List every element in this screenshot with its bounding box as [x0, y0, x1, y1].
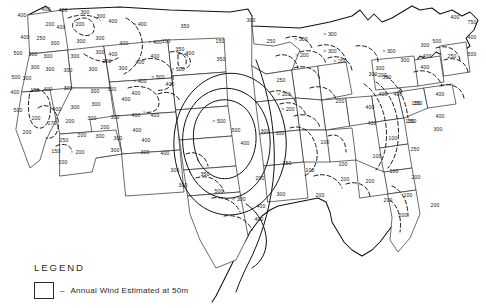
contour-label: > 200	[295, 52, 308, 58]
contour-label: 400	[21, 34, 30, 40]
contour-label: 250	[411, 146, 420, 152]
contour-label: 250	[267, 38, 276, 44]
contour-label: 400	[366, 104, 375, 110]
contour-label: 500	[14, 50, 23, 56]
contour-label: 500	[232, 127, 241, 133]
contour-label: 200	[46, 21, 55, 27]
contour-label: 400	[133, 127, 142, 133]
contour-label: 150	[283, 160, 292, 166]
contour-label: 350	[176, 46, 185, 52]
contour-label: > 400	[133, 21, 146, 27]
contour-label: 200	[431, 202, 440, 208]
contour-label: 200	[101, 124, 110, 130]
contour-label: 350	[162, 38, 171, 44]
contour-label: 300	[81, 9, 90, 15]
contour-label: 400	[136, 59, 145, 65]
contour-label: 500	[14, 107, 23, 113]
contour-label: > 300	[382, 48, 395, 54]
contour-gulf-coast-tx	[246, 204, 266, 268]
contour-label: 300	[111, 147, 120, 153]
legend-row: – Annual Wind Estimated at 50m	[34, 282, 189, 299]
legend: LEGEND – Annual Wind Estimated at 50m	[30, 262, 260, 306]
contour-label: 250	[277, 77, 286, 83]
contour-label: 300	[276, 130, 285, 136]
contour-label: 400	[42, 6, 51, 12]
contour-label: 500	[433, 38, 442, 44]
state-michigan	[318, 62, 352, 100]
contour-label: 300	[96, 49, 105, 55]
contour-label: 400	[151, 53, 160, 59]
contour-label: 400	[11, 89, 20, 95]
contour-label: 300	[421, 42, 430, 48]
contour-label: 400	[142, 137, 151, 143]
contour-label: 300	[31, 64, 40, 70]
contour-label: > 400	[133, 78, 146, 84]
contour-label: 200	[412, 174, 421, 180]
contour-label: 200	[336, 98, 345, 104]
contour-label: 150	[52, 148, 61, 154]
legend-dash: –	[60, 286, 64, 295]
contour-label: 300	[64, 85, 73, 91]
contour-label: 300	[111, 114, 120, 120]
contour-label: 100	[339, 161, 348, 167]
contour-label: 200	[399, 212, 408, 218]
contour-label: 200	[384, 197, 393, 203]
state-washington	[28, 10, 68, 54]
state-florida	[388, 190, 420, 252]
contour-label: 300	[23, 75, 32, 81]
contour-label: 200	[316, 192, 325, 198]
contour-label: 300	[261, 128, 270, 134]
contour-label: 300	[96, 35, 105, 41]
contour-label: > 400	[148, 39, 161, 45]
contour-label: 100	[321, 139, 330, 145]
contour-label: 300	[171, 167, 180, 173]
contour-label: 400	[57, 24, 66, 30]
contour-label: 400	[120, 40, 129, 46]
contour-label: > 300	[294, 36, 307, 42]
contour-label: 400	[161, 150, 170, 156]
contour-label: > 200	[281, 106, 294, 112]
contour-label: 400	[59, 7, 68, 13]
legend-swatch-label: Annual Wind Estimated at 50m	[70, 286, 188, 295]
wind-resource-map: 400400400300300400200200400> 40035030040…	[0, 0, 486, 308]
contour-label: 300	[434, 126, 443, 132]
contour-label: 250	[37, 35, 46, 41]
contour-label: 400	[166, 81, 175, 87]
contour-label: 300	[114, 135, 123, 141]
contour-label: 300	[97, 13, 106, 19]
contour-label: 400	[368, 120, 377, 126]
contour-label: 500	[12, 74, 21, 80]
contour-label: 400	[132, 90, 141, 96]
contour-label: 400	[109, 18, 118, 24]
contour-label: 300	[247, 17, 256, 23]
contour-label: 150	[31, 87, 40, 93]
contour-label: > 300	[323, 31, 336, 37]
contour-label: 250	[448, 53, 457, 59]
contour-label: 300	[277, 191, 286, 197]
contour-label: 300	[71, 104, 80, 110]
contour-label: 100	[404, 192, 413, 198]
contour-label: 300	[29, 51, 38, 57]
contour-label: > 300	[323, 48, 336, 54]
contour-label: 400	[423, 53, 432, 59]
state-colorado	[116, 112, 180, 154]
state-wisconsin	[292, 66, 322, 100]
contour-label: 400	[421, 64, 430, 70]
contour-label: 100	[390, 168, 399, 174]
contour-label: 300	[46, 66, 55, 72]
contour-label: 350	[201, 171, 210, 177]
contour-label: > 200	[333, 58, 346, 64]
contour-label: 300	[401, 57, 410, 63]
contour-label: 300	[179, 182, 188, 188]
contour-label: 200	[78, 132, 87, 138]
contour-label: 400	[151, 112, 160, 118]
contour-200-gulf	[314, 175, 342, 188]
contour-label: > 200	[277, 91, 290, 97]
contour-label: 300	[64, 67, 73, 73]
contour-label: 300	[89, 66, 98, 72]
contour-label: 150	[216, 38, 225, 44]
contour-label: 300	[44, 53, 53, 59]
contour-label: 200	[59, 159, 68, 165]
contour-label: 400	[255, 216, 264, 222]
contour-label: 100	[373, 153, 382, 159]
